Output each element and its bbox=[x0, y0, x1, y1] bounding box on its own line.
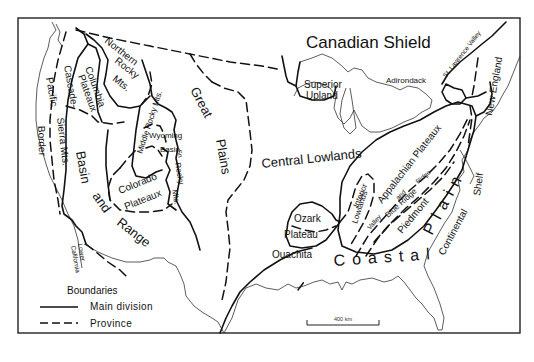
atlantic-coastline bbox=[424, 56, 520, 266]
label-basin-and-range-2: and bbox=[90, 189, 115, 215]
label-southern-rocky-1: Sn bbox=[176, 149, 184, 158]
label-ozark-plateau-1: Ozark bbox=[294, 213, 322, 224]
legend-title: Boundaries bbox=[67, 285, 118, 296]
label-ozark-plateau-2: Plateau bbox=[284, 229, 318, 240]
label-great-plains-1: Great bbox=[187, 84, 216, 120]
label-valley-and-ridge-3: Ridge bbox=[414, 168, 432, 185]
label-central-lowlands: Central Lowlands bbox=[261, 146, 363, 171]
boundary-basin-range bbox=[106, 130, 110, 200]
lake-michigan bbox=[340, 88, 356, 134]
scale-bar-label: 400 km bbox=[334, 316, 352, 322]
label-southern-rocky-2: Rocky bbox=[173, 162, 186, 185]
puget-sound bbox=[56, 24, 62, 46]
label-canadian-shield: Canadian Shield bbox=[306, 33, 431, 52]
label-southern-rocky-3: Mts. bbox=[170, 189, 181, 205]
label-superior-upland-2: Upland bbox=[306, 90, 338, 101]
legend-label-main-division: Main division bbox=[90, 301, 153, 312]
label-pacific-border-1: Pacific bbox=[44, 76, 60, 107]
physiographic-map: Canadian Shield Superior Upland Adironda… bbox=[0, 0, 534, 362]
label-adirondack: Adirondack bbox=[386, 76, 427, 85]
label-superior-upland-1: Superior bbox=[304, 79, 342, 90]
label-wyoming-basin-1: Wyoming bbox=[149, 131, 182, 140]
boundary-adirondack bbox=[442, 84, 466, 104]
label-cascade-sierra-1: Cascade- bbox=[62, 64, 80, 108]
boundary-new-england-west-2 bbox=[472, 58, 478, 96]
legend-label-province: Province bbox=[90, 318, 132, 329]
boundary-canada-border-2 bbox=[190, 54, 212, 82]
label-great-plains-2: Plains bbox=[213, 138, 234, 176]
label-st-lawrence-valley: St. Lawrence Valley bbox=[441, 29, 483, 79]
label-ouachita: Ouachita bbox=[272, 249, 312, 260]
boundary-canadian-shield bbox=[282, 56, 296, 86]
label-basin-and-range-3: Range bbox=[114, 215, 153, 250]
legend: Boundaries Main division Province bbox=[40, 285, 153, 329]
boundary-ozark bbox=[286, 202, 340, 248]
boundary-colorado-plateau-2 bbox=[120, 150, 136, 168]
label-pacific-border-2: Border bbox=[36, 126, 48, 157]
boundary-great-plains-east bbox=[212, 82, 252, 300]
label-new-england: New England bbox=[483, 56, 504, 116]
label-continental-shelf-2: Shelf bbox=[471, 172, 485, 196]
label-cascade-sierra-2: Sierra Mts. bbox=[55, 117, 72, 166]
label-basin-and-range-1: Basin bbox=[73, 150, 93, 185]
scale-bar: 400 km bbox=[307, 316, 379, 325]
